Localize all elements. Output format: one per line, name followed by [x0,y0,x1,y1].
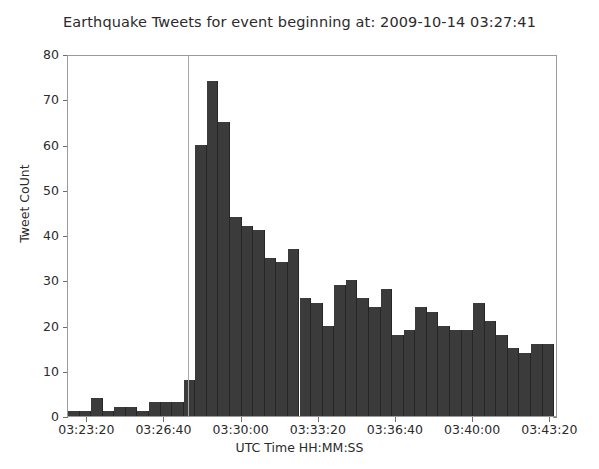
bar [218,122,230,416]
bar [172,402,184,416]
bar [323,326,335,417]
bar [485,321,497,416]
plot-area [67,55,557,417]
bar [265,258,277,416]
bar [207,81,219,416]
bar [381,289,393,416]
bar [230,217,242,416]
bar [346,280,358,416]
bar [114,407,126,416]
x-tick-label: 03:30:00 [201,422,281,437]
x-tick-mark [395,417,396,422]
event-start-marker-line [188,56,189,416]
bar [137,411,149,416]
bar [450,330,462,416]
bar [68,411,80,416]
bar [80,411,92,416]
bar [369,307,381,416]
bar [149,402,161,416]
x-tick-mark [86,417,87,422]
bar [543,344,555,416]
y-tick-label: 70 [19,92,59,107]
y-tick-mark-right [553,417,557,418]
bar [404,330,416,416]
bar [253,230,265,416]
bar [473,303,485,416]
bar [519,353,531,416]
x-tick-label: 03:26:40 [123,422,203,437]
bar [438,326,450,417]
bar [392,335,404,416]
bar [242,226,254,416]
bar [462,330,474,416]
y-tick-label: 20 [19,319,59,334]
y-tick-mark [63,417,68,418]
bar [357,298,369,416]
bar [415,307,427,416]
bar [508,348,520,416]
x-tick-mark [241,417,242,422]
x-tick-label: 03:36:40 [355,422,435,437]
x-tick-label: 03:43:20 [509,422,589,437]
bar [531,344,543,416]
x-tick-label: 03:23:20 [46,422,126,437]
y-tick-label: 80 [19,47,59,62]
bar [427,312,439,416]
bar [103,411,115,416]
y-tick-label: 30 [19,273,59,288]
bar [126,407,138,416]
x-tick-label: 03:33:20 [278,422,358,437]
bar [195,145,207,417]
y-axis-label: Tweet CoUnt [17,134,32,274]
bar [276,262,288,416]
x-tick-mark [549,417,550,422]
bar-series [68,56,556,416]
chart-figure: Earthquake Tweets for event beginning at… [0,0,599,469]
bar [300,298,312,416]
chart-title: Earthquake Tweets for event beginning at… [0,14,599,30]
bar [91,398,103,416]
bar [334,285,346,416]
bar [184,380,196,416]
bar [311,303,323,416]
x-tick-mark [163,417,164,422]
bar [496,335,508,416]
y-tick-label: 10 [19,364,59,379]
bar [288,249,300,416]
x-axis-label: UTC Time HH:MM:SS [0,440,599,455]
bar [161,402,173,416]
x-tick-mark [318,417,319,422]
x-tick-mark [472,417,473,422]
x-tick-label: 03:40:00 [432,422,512,437]
